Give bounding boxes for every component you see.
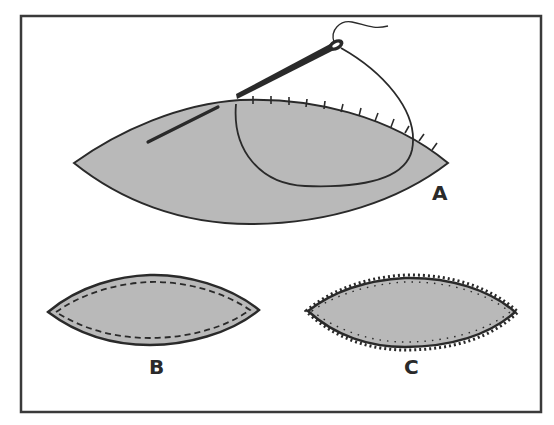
panel-b: B bbox=[48, 275, 259, 379]
panel-label-a: A bbox=[432, 181, 448, 205]
panel-c: C bbox=[306, 275, 518, 379]
panel-a: A bbox=[74, 22, 448, 224]
panel-label-b: B bbox=[149, 355, 164, 379]
fabric-piece-b bbox=[48, 275, 259, 345]
thread-tail bbox=[333, 22, 388, 42]
needle-icon bbox=[236, 37, 345, 99]
panel-label-c: C bbox=[404, 355, 419, 379]
sewing-stitches-diagram: A B C bbox=[0, 0, 554, 425]
fabric-piece-a bbox=[74, 100, 448, 224]
